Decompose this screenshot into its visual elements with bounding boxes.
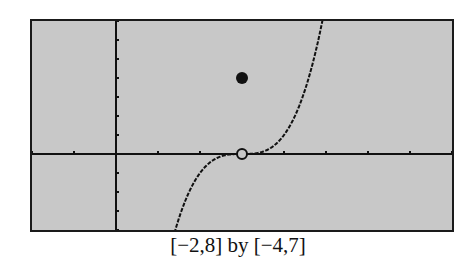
window-caption: [−2,8] by [−4,7] (0, 233, 476, 258)
calculator-screen (30, 19, 454, 232)
function-curve (175, 21, 324, 230)
filled-dot-marker (236, 72, 248, 84)
open-circle-marker (237, 149, 247, 159)
graph-plot (32, 21, 452, 230)
